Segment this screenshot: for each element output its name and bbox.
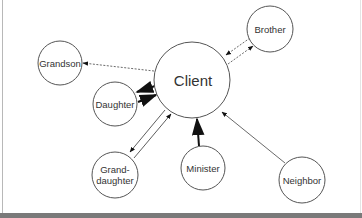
node-label-grandson: Grandson bbox=[39, 58, 81, 69]
edge-client-daughter bbox=[137, 86, 156, 102]
node-label-client: Client bbox=[174, 72, 213, 89]
edge-neighbor-client bbox=[222, 112, 285, 163]
node-label-minister: Minister bbox=[186, 163, 219, 174]
ecomap-diagram: Client Brother Grandson Daughter Grand- … bbox=[0, 0, 362, 213]
node-daughter: Daughter bbox=[93, 82, 137, 126]
edge-client-brother bbox=[226, 38, 253, 64]
bottom-bar bbox=[0, 213, 362, 218]
diagram-frame: Client Brother Grandson Daughter Grand- … bbox=[0, 0, 362, 218]
node-label-granddaughter-line1: Grand- bbox=[100, 164, 130, 175]
edge-client-grandson bbox=[83, 63, 154, 71]
node-minister: Minister bbox=[181, 146, 225, 190]
node-label-daughter: Daughter bbox=[95, 99, 134, 110]
node-granddaughter: Grand- daughter bbox=[92, 152, 138, 198]
node-label-neighbor: Neighbor bbox=[283, 175, 322, 186]
node-neighbor: Neighbor bbox=[279, 157, 325, 203]
node-grandson: Grandson bbox=[38, 41, 82, 85]
node-client: Client bbox=[154, 42, 230, 118]
node-brother: Brother bbox=[247, 6, 293, 52]
edge-client-granddaughter bbox=[130, 110, 171, 158]
node-label-granddaughter-line2: daughter bbox=[96, 175, 134, 186]
node-label-brother: Brother bbox=[254, 24, 285, 35]
edge-minister-client bbox=[197, 119, 199, 146]
